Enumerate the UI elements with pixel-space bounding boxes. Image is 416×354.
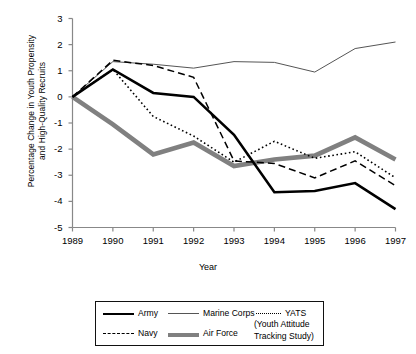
y-tick-1: 2 xyxy=(43,39,63,50)
x-tick-1990: 1990 xyxy=(93,235,133,246)
series-marine-corps xyxy=(73,42,396,97)
y-tick-3: 0 xyxy=(43,91,63,102)
y-tick-2: 1 xyxy=(43,65,63,76)
series-lines xyxy=(73,42,396,209)
y-tick-8: -5 xyxy=(43,222,63,233)
x-tick-1991: 1991 xyxy=(133,235,173,246)
x-tick-1994: 1994 xyxy=(254,235,294,246)
legend-swatch-navy-icon xyxy=(103,329,134,338)
legend-item-army[interactable]: Army xyxy=(103,308,158,318)
y-tick-6: -3 xyxy=(43,169,63,180)
x-tick-1997: 1997 xyxy=(376,235,416,246)
x-tick-1992: 1992 xyxy=(174,235,214,246)
x-tick-1995: 1995 xyxy=(295,235,335,246)
chart-figure: Percentage Change in Youth Propensity an… xyxy=(0,0,416,354)
legend-label-air-force: Air Force xyxy=(203,328,238,338)
y-tick-0: 3 xyxy=(43,13,63,24)
y-tick-4: -1 xyxy=(43,117,63,128)
legend-item-yats[interactable]: YATS xyxy=(256,308,306,318)
x-tick-1993: 1993 xyxy=(214,235,254,246)
x-axis-title: Year xyxy=(0,262,416,272)
legend-swatch-air-force-icon xyxy=(168,329,199,338)
legend-swatch-yats-icon xyxy=(256,309,281,318)
legend-item-air-force[interactable]: Air Force xyxy=(168,328,238,338)
legend-swatch-army-icon xyxy=(103,309,134,318)
legend: Army Marine Corps YATS Navy Air Force (Y… xyxy=(95,301,324,346)
y-tick-5: -2 xyxy=(43,143,63,154)
legend-label-yats: YATS xyxy=(285,308,306,318)
legend-item-marine-corps[interactable]: Marine Corps xyxy=(168,308,255,318)
series-air-force xyxy=(73,97,396,166)
x-tick-1989: 1989 xyxy=(53,235,93,246)
legend-yats-expansion: (Youth Attitude Tracking Study) xyxy=(254,318,314,342)
legend-label-marine-corps: Marine Corps xyxy=(203,308,255,318)
legend-label-navy: Navy xyxy=(138,328,158,338)
legend-swatch-marine-corps-icon xyxy=(168,309,199,318)
x-tick-1996: 1996 xyxy=(335,235,375,246)
legend-label-army: Army xyxy=(138,308,158,318)
series-yats xyxy=(73,69,396,177)
legend-item-navy[interactable]: Navy xyxy=(103,328,158,338)
y-tick-7: -4 xyxy=(43,195,63,206)
